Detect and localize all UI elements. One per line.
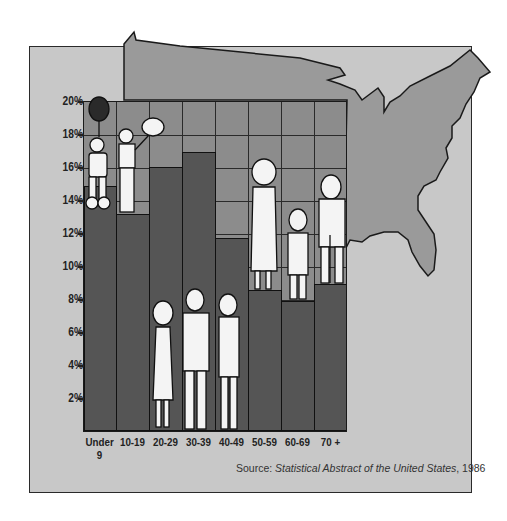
y-tick-mark: [78, 365, 84, 367]
x-tick-label: 60-69: [283, 436, 311, 449]
source-caption: Source: Statistical Abstract of the Unit…: [236, 462, 485, 474]
y-tick-mark: [78, 398, 84, 400]
x-label-line: Under: [85, 436, 113, 449]
x-label-line: 9: [85, 449, 113, 462]
y-tick-mark: [78, 101, 84, 103]
y-tick-mark: [78, 332, 84, 334]
y-tick-mark: [78, 134, 84, 136]
source-title: Statistical Abstract of the United State…: [275, 462, 456, 474]
y-tick-mark: [78, 266, 84, 268]
y-tick-mark: [78, 299, 84, 301]
x-tick-label: 30-39: [184, 436, 212, 449]
x-tick-label-under-9: Under 9: [85, 436, 113, 462]
x-tick-label: 20-29: [151, 436, 179, 449]
people-illustrations: [83, 95, 347, 435]
x-tick-label: 50-59: [250, 436, 278, 449]
source-prefix: Source:: [236, 462, 275, 474]
x-tick-label: 10-19: [118, 436, 146, 449]
x-tick-label: 70 +: [316, 436, 344, 449]
y-tick-mark: [78, 200, 84, 202]
x-tick-label: 40-49: [217, 436, 245, 449]
source-year: , 1986: [456, 462, 485, 474]
y-tick-mark: [78, 167, 84, 169]
y-tick-mark: [78, 233, 84, 235]
